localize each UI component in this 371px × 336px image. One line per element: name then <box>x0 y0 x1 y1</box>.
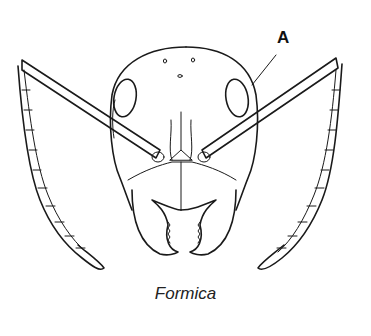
clypeus <box>128 112 236 210</box>
right-antenna <box>198 58 342 269</box>
right-eye <box>223 77 251 118</box>
mandibles <box>132 190 236 255</box>
ocelli <box>163 58 194 77</box>
figure-caption: Formica <box>0 284 371 304</box>
label-a-leader-line <box>252 55 276 85</box>
label-a: A <box>277 28 289 48</box>
head-capsule <box>110 47 257 210</box>
